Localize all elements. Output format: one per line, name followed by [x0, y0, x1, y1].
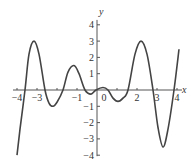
y-tick-label: −2 [83, 117, 94, 128]
x-tick-label: −1 [72, 92, 83, 103]
x-tick-label: 0 [102, 92, 107, 103]
y-axis-label: y [98, 6, 104, 17]
y-tick-label: 3 [89, 36, 94, 47]
x-tick-label: −4 [12, 92, 23, 103]
y-tick-label: 4 [89, 19, 94, 30]
x-tick-label: 2 [135, 92, 140, 103]
y-tick-label: 2 [89, 52, 94, 63]
x-tick-label: −3 [32, 92, 43, 103]
y-tick-label: −4 [83, 150, 94, 161]
y-tick-label: −3 [83, 133, 94, 144]
y-tick-label: 1 [89, 68, 94, 79]
x-axis-label: x [181, 84, 187, 95]
x-tick-label: 4 [175, 92, 180, 103]
y-tick-label: −1 [83, 101, 94, 112]
chart: −4−3−102344321−1−2−3−4 x y [0, 0, 193, 168]
